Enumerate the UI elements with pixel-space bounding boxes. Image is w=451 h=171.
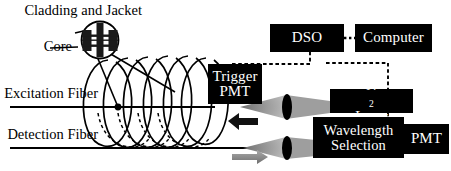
excitation-fiber-label: Excitation Fiber bbox=[0, 86, 98, 101]
wavelength-line1: Wavelength bbox=[324, 123, 394, 138]
wavelength-line2: Selection bbox=[331, 138, 386, 153]
trigger-pmt-line2: PMT bbox=[219, 84, 250, 99]
cladding-label-line1: Cladding and bbox=[24, 2, 102, 18]
figure-canvas: Cladding and Jacket Core Excitation Fibe… bbox=[0, 0, 451, 171]
n2-laser-box[interactable]: N2 Laser bbox=[330, 89, 413, 113]
core-label: Core bbox=[2, 39, 72, 54]
trigger-pmt-box[interactable]: Trigger PMT bbox=[208, 64, 262, 104]
excitation-label-line2: Fiber bbox=[67, 85, 98, 101]
pmt-box[interactable]: PMT bbox=[404, 124, 449, 154]
detection-fiber-label: Detection Fiber bbox=[0, 127, 98, 142]
focusing-lens-upper bbox=[282, 94, 292, 120]
wavelength-selection-box[interactable]: Wavelength Selection bbox=[313, 117, 404, 158]
dso-box[interactable]: DSO bbox=[270, 24, 344, 52]
detection-label-line1: Detection bbox=[7, 126, 63, 142]
cladding-label-line2: Jacket bbox=[106, 2, 142, 18]
trigger-pmt-line1: Trigger bbox=[212, 69, 257, 84]
focusing-lens-lower bbox=[282, 136, 292, 160]
arrow-left-excitation bbox=[228, 113, 258, 130]
helical-fiber-coil bbox=[83, 56, 228, 147]
excitation-label-line1: Excitation bbox=[4, 85, 64, 101]
dashed-signal-line-trigger bbox=[232, 52, 310, 64]
computer-box[interactable]: Computer bbox=[355, 24, 432, 52]
detection-label-line2: Fiber bbox=[67, 126, 98, 142]
cladding-and-jacket-label: Cladding and Jacket bbox=[2, 3, 142, 18]
fiber-cross-section-icon bbox=[82, 22, 119, 59]
